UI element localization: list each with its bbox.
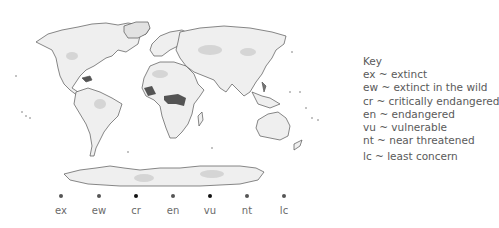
greenland	[124, 22, 150, 38]
scale-label: ew	[84, 205, 114, 216]
dot-icon	[97, 194, 101, 198]
scale-item-nt: nt	[232, 192, 262, 216]
dot-icon	[245, 194, 249, 198]
scale-label: lc	[269, 205, 299, 216]
legend-entry-en: en ~ endangered	[363, 108, 499, 121]
legend-entry-nt: nt ~ near threatened	[363, 134, 499, 147]
dot-icon	[171, 194, 175, 198]
status-scale: ex ew cr en vu nt lc	[44, 192, 304, 222]
scale-item-vu: vu	[195, 192, 225, 216]
legend-key: Key ex ~ extinct ew ~ extinct in the wil…	[363, 55, 499, 164]
legend-entry-vu: vu ~ vulnerable	[363, 121, 499, 134]
australia	[256, 112, 290, 140]
legend-entry-ew: ew ~ extinct in the wild	[363, 81, 499, 94]
dot-icon	[208, 194, 212, 198]
scale-item-ex: ex	[46, 192, 76, 216]
scale-label: cr	[121, 205, 151, 216]
scale-label: ex	[46, 205, 76, 216]
dot-icon	[134, 194, 138, 198]
dot-icon	[282, 194, 286, 198]
legend-entry-lc: lc ~ least concern	[363, 150, 499, 163]
legend-entry-cr: cr ~ critically endangered	[363, 95, 499, 108]
south-america	[74, 88, 122, 156]
dot-icon	[59, 194, 63, 198]
scale-item-en: en	[158, 192, 188, 216]
scale-label: en	[158, 205, 188, 216]
scale-item-ew: ew	[84, 192, 114, 216]
scale-label: vu	[195, 205, 225, 216]
legend-entry-ex: ex ~ extinct	[363, 68, 499, 81]
legend-title: Key	[363, 55, 499, 68]
world-map	[0, 0, 330, 190]
scale-item-cr: cr	[121, 192, 151, 216]
scale-label: nt	[232, 205, 262, 216]
antarctica	[64, 166, 264, 186]
scale-item-lc: lc	[269, 192, 299, 216]
